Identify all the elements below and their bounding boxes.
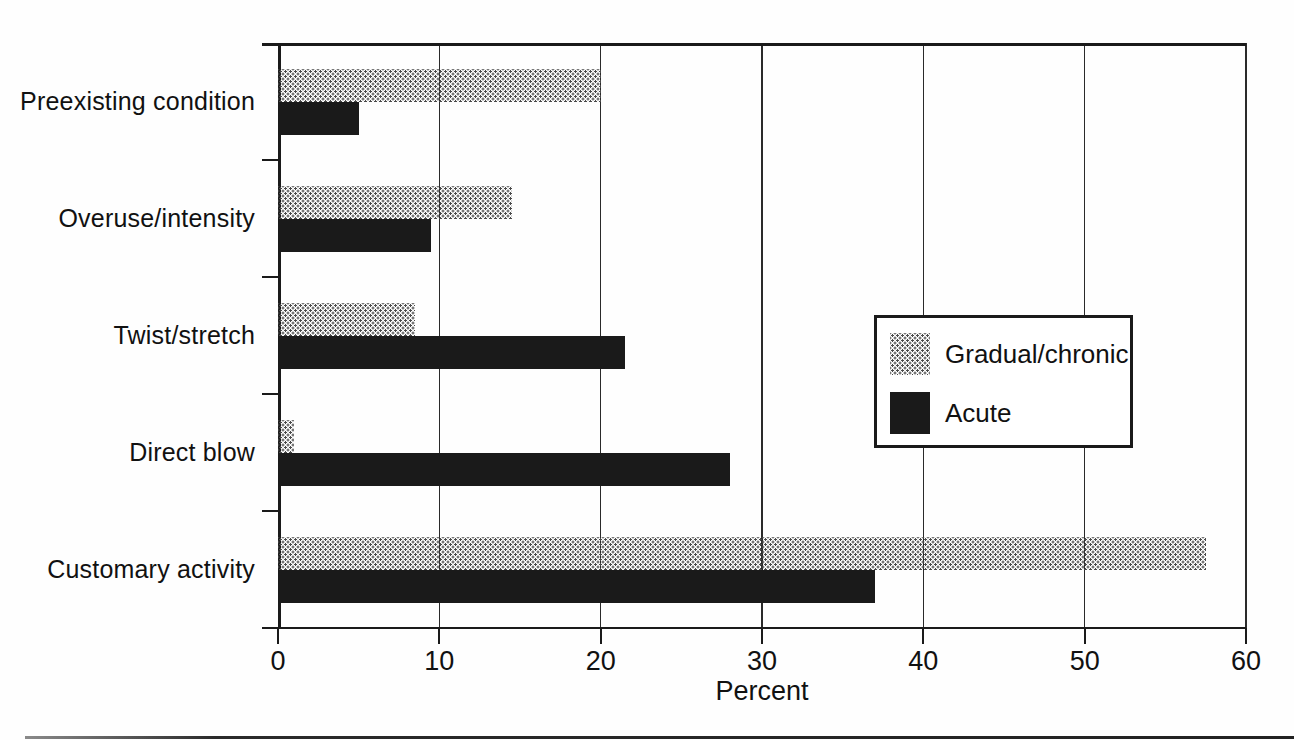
x-axis-title: Percent	[278, 676, 1246, 707]
x-tick-label-60: 60	[1206, 646, 1286, 677]
legend-label-gradual-chronic: Gradual/chronic	[945, 339, 1129, 370]
legend-box: Gradual/chronic Acute	[874, 315, 1133, 448]
x-tick-label-50: 50	[1045, 646, 1125, 677]
legend-item-gradual-chronic: Gradual/chronic	[890, 333, 1129, 375]
x-axis-line	[262, 627, 1246, 630]
y-tick-3	[262, 393, 278, 395]
x-tick-0	[277, 628, 279, 644]
bar-acute	[278, 570, 875, 603]
bar-chart-figure: Preexisting conditionOveruse/intensityTw…	[0, 0, 1294, 740]
x-tick-label-30: 30	[722, 646, 802, 677]
x-tick-10	[438, 628, 440, 644]
acute-swatch-icon	[890, 392, 930, 434]
y-tick-4	[262, 510, 278, 512]
page-rule-divider	[25, 736, 1294, 739]
x-tick-label-0: 0	[238, 646, 318, 677]
bar-gradual-chronic	[278, 537, 1206, 570]
bar-gradual-chronic	[278, 420, 294, 453]
bar-gradual-chronic	[278, 69, 601, 102]
bar-gradual-chronic	[278, 303, 415, 336]
x-tick-20	[600, 628, 602, 644]
legend-item-acute: Acute	[890, 392, 1012, 434]
x-tick-label-40: 40	[883, 646, 963, 677]
category-label: Twist/stretch	[0, 277, 255, 394]
category-label: Overuse/intensity	[0, 160, 255, 277]
gradual-chronic-swatch-icon	[890, 333, 930, 375]
bar-acute	[278, 102, 359, 135]
category-label: Preexisting condition	[0, 43, 255, 160]
x-tick-label-10: 10	[399, 646, 479, 677]
plot-top-border	[262, 43, 1246, 46]
category-label: Customary activity	[0, 511, 255, 628]
legend-label-acute: Acute	[945, 398, 1012, 429]
x-tick-40	[922, 628, 924, 644]
x-tick-50	[1084, 628, 1086, 644]
bar-acute	[278, 219, 431, 252]
bar-acute	[278, 453, 730, 486]
bar-gradual-chronic	[278, 186, 512, 219]
x-tick-60	[1245, 628, 1247, 644]
y-tick-2	[262, 276, 278, 278]
x-tick-label-20: 20	[561, 646, 641, 677]
y-tick-1	[262, 159, 278, 161]
x-tick-30	[761, 628, 763, 644]
bar-acute	[278, 336, 625, 369]
category-label: Direct blow	[0, 394, 255, 511]
gridline-60	[1245, 43, 1247, 628]
